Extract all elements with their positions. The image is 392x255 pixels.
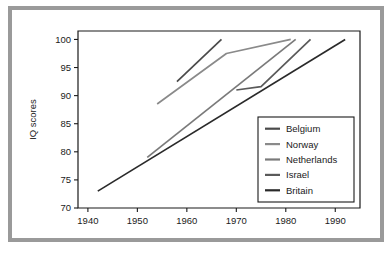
y-tick-label-100: 100 (55, 34, 71, 45)
y-tick-label-75: 75 (60, 174, 71, 185)
x-tick-label-1980: 1980 (275, 215, 296, 226)
x-tick-label-1970: 1970 (226, 215, 247, 226)
y-tick-label-85: 85 (60, 118, 71, 129)
x-tick-label-1940: 1940 (77, 215, 98, 226)
iq-scores-line-chart: 707580859095100194019501960197019801990I… (0, 0, 392, 255)
y-tick-label-70: 70 (60, 202, 71, 213)
series-line-norway (157, 39, 291, 104)
legend-label-israel: Israel (286, 169, 309, 180)
legend-group: BelgiumNorwayNetherlandsIsraelBritain (258, 117, 354, 202)
legend-label-britain: Britain (286, 185, 313, 196)
series-line-israel (236, 39, 310, 90)
y-tick-label-95: 95 (60, 62, 71, 73)
x-tick-label-1960: 1960 (176, 215, 197, 226)
y-tick-label-90: 90 (60, 90, 71, 101)
plot-wrapper: 707580859095100194019501960197019801990I… (0, 0, 392, 255)
y-axis-title: IQ scores (27, 99, 38, 140)
legend-label-belgium: Belgium (286, 123, 320, 134)
series-line-belgium (177, 39, 222, 81)
x-tick-label-1950: 1950 (127, 215, 148, 226)
legend-label-netherlands: Netherlands (286, 154, 337, 165)
legend-label-norway: Norway (286, 139, 318, 150)
x-tick-label-1990: 1990 (325, 215, 346, 226)
y-tick-label-80: 80 (60, 146, 71, 157)
figure-root: 707580859095100194019501960197019801990I… (0, 0, 392, 255)
